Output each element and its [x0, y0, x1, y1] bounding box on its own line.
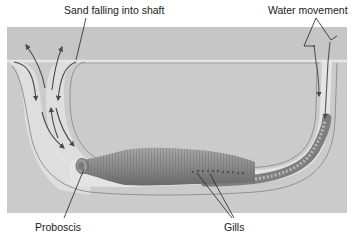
- label-sand-falling: Sand falling into shaft: [64, 5, 164, 16]
- label-proboscis: Proboscis: [35, 222, 81, 233]
- lugworm-burrow-diagram: [0, 0, 358, 243]
- label-gills: Gills: [224, 222, 244, 233]
- label-water-movement: Water movement: [268, 5, 348, 16]
